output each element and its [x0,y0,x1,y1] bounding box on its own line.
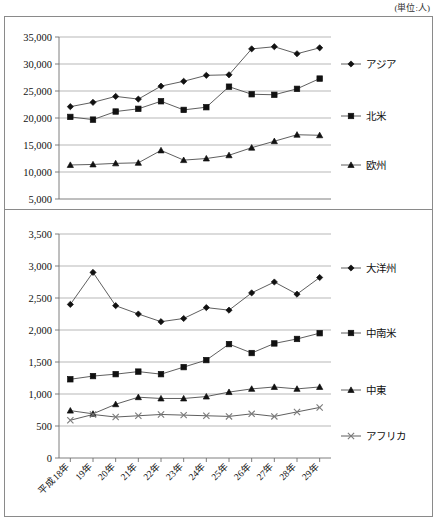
marker-diamond [158,319,164,325]
marker-square [294,86,299,91]
x-tick-label: 27年 [254,461,276,483]
y-tick-label: 0 [47,453,52,464]
marker-square [294,336,299,341]
marker-triangle [67,408,73,414]
marker-diamond [181,315,187,321]
x-tick-label: 26年 [232,461,254,483]
legend-item-北米[interactable]: 北米 [341,110,387,122]
series-中南米 [68,330,323,382]
marker-square [249,92,254,97]
series-line [70,407,319,420]
marker-square [204,357,209,362]
marker-square [113,109,118,114]
marker-triangle [271,384,277,390]
marker-diamond [135,311,141,317]
marker-diamond [67,301,73,307]
legend-label: 大洋州 [366,262,396,274]
marker-square [90,117,95,122]
chart-panel-top: 5,00010,00015,00020,00025,00030,00035,00… [4,16,433,210]
chart-panel-bottom: 05001,0001,5002,0002,5003,0003,500平成18年1… [4,209,433,517]
marker-x [67,417,73,423]
legend-label: 中東 [366,384,387,396]
y-tick-label: 1,500 [28,357,52,368]
marker-diamond [294,51,300,57]
marker-square [226,341,231,346]
marker-square [226,84,231,89]
marker-triangle [317,384,323,390]
marker-square [249,350,254,355]
legend-item-アジア[interactable]: アジア [341,59,396,70]
marker-square [272,92,277,97]
marker-square [348,330,353,335]
y-tick-label: 25,000 [23,86,52,97]
marker-diamond [181,78,187,84]
marker-diamond [348,61,354,67]
marker-square [181,364,186,369]
marker-square [348,113,353,118]
legend-item-アフリカ[interactable]: アフリカ [341,431,406,442]
y-tick-label: 2,500 [28,293,52,304]
marker-square [158,371,163,376]
marker-diamond [158,83,164,89]
y-tick-label: 500 [36,421,52,432]
marker-square [317,330,322,335]
marker-diamond [317,45,323,51]
x-tick-label: 29年 [300,461,322,483]
legend-item-中南米[interactable]: 中南米 [341,327,397,339]
marker-square [136,106,141,111]
series-line [70,47,319,107]
series-中東 [67,384,323,416]
y-tick-label: 20,000 [23,113,52,124]
y-tick-label: 5,000 [28,194,52,205]
line-chart-bottom: 05001,0001,5002,0002,5003,0003,500平成18年1… [5,210,432,516]
marker-diamond [294,291,300,297]
marker-diamond [271,44,277,50]
series-line [70,333,319,379]
legend-item-大洋州[interactable]: 大洋州 [341,262,396,274]
marker-square [204,104,209,109]
series-アジア [67,44,323,110]
marker-diamond [67,104,73,110]
marker-square [90,373,95,378]
marker-diamond [113,93,119,99]
series-line [70,79,319,120]
marker-square [136,369,141,374]
marker-diamond [271,279,277,285]
legend-label: 欧州 [366,160,386,171]
series-line [70,135,319,165]
series-欧州 [67,132,323,168]
line-chart-top: 5,00010,00015,00020,00025,00030,00035,00… [5,17,432,209]
marker-triangle [158,147,164,153]
y-tick-label: 1,000 [28,389,52,400]
marker-square [181,107,186,112]
x-tick-label: 25年 [209,461,231,483]
marker-diamond [135,96,141,102]
legend-label: アフリカ [366,431,406,442]
legend-item-欧州[interactable]: 欧州 [341,160,386,171]
marker-square [317,76,322,81]
marker-diamond [203,305,209,311]
marker-diamond [90,269,96,275]
marker-diamond [203,72,209,78]
x-tick-label: 28年 [277,461,299,483]
unit-note: (単位:人) [395,1,431,14]
marker-square [68,114,73,119]
marker-square [158,99,163,104]
marker-diamond [113,303,119,309]
y-tick-label: 2,000 [28,325,52,336]
marker-diamond [348,265,354,271]
legend-item-中東[interactable]: 中東 [341,384,387,396]
marker-diamond [317,274,323,280]
marker-diamond [90,99,96,105]
y-tick-label: 15,000 [23,140,52,151]
y-tick-label: 3,500 [28,229,52,240]
x-tick-label: 平成18年 [36,461,72,497]
y-tick-label: 3,000 [28,261,52,272]
x-tick-label: 20年 [96,461,118,483]
y-tick-label: 30,000 [23,59,52,70]
x-tick-label: 21年 [118,461,140,483]
series-アフリカ [67,404,323,423]
legend-label: アジア [366,59,396,70]
y-tick-label: 10,000 [23,167,52,178]
series-line [70,387,319,414]
